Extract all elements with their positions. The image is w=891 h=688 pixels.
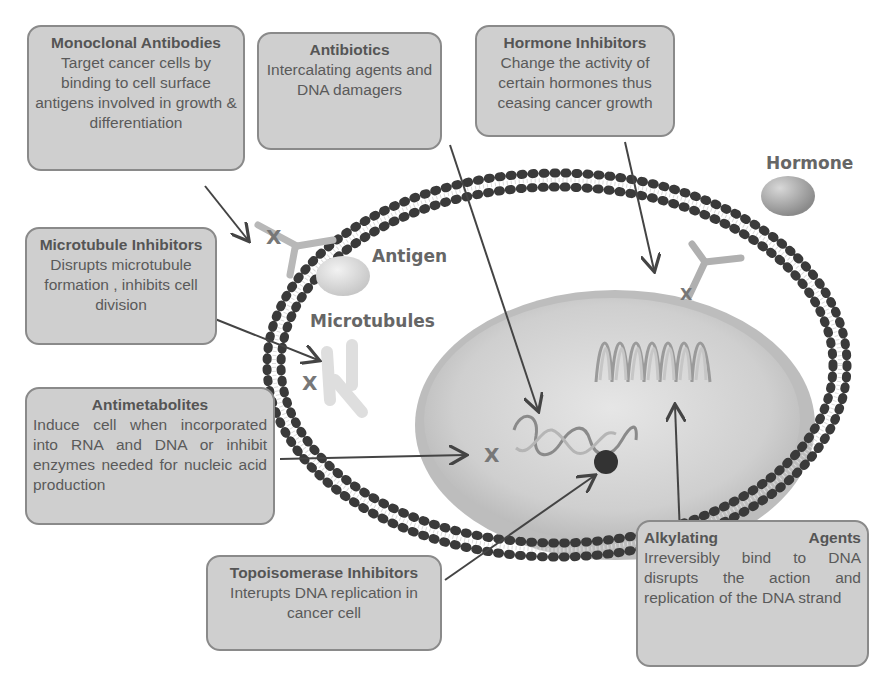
- arrow-microtubule: [210, 317, 318, 360]
- box-hormone-inhibitors: Hormone Inhibitors Change the activity o…: [475, 25, 675, 137]
- hormone-label: Hormone: [766, 153, 853, 173]
- x-mark-microtubule: X: [302, 371, 318, 395]
- x-mark-receptor: X: [680, 285, 693, 304]
- box-description: Irreversibly bind to DNA disrupts the ac…: [644, 548, 861, 608]
- microtubules-icon: [327, 345, 362, 412]
- box-description: Interupts DNA replication in cancer cell: [214, 583, 434, 623]
- box-title: Antibiotics: [265, 40, 434, 60]
- hormone-receptor-icon: [689, 244, 741, 296]
- arrow-hormone: [625, 142, 654, 270]
- antigen-label: Antigen: [372, 246, 447, 266]
- x-mark-antibody: X: [266, 225, 282, 249]
- box-alkylating-agents: Alkylating Agents Irreversibly bind to D…: [636, 520, 869, 667]
- box-topoisomerase-inhibitors: Topoisomerase Inhibitors Interupts DNA r…: [206, 555, 442, 651]
- box-title: Microtubule Inhibitors: [33, 235, 209, 255]
- box-description: Intercalating agents and DNA damagers: [265, 60, 434, 100]
- dna-damage-spot: [594, 450, 618, 474]
- box-description: Target cancer cells by binding to cell s…: [35, 53, 237, 133]
- box-title: Antimetabolites: [33, 395, 267, 415]
- box-monoclonal-antibodies: Monoclonal Antibodies Target cancer cell…: [27, 25, 245, 171]
- box-description: Disrupts microtubule formation , inhibit…: [33, 255, 209, 315]
- box-description: Change the activity of certain hormones …: [483, 53, 667, 113]
- box-title: Monoclonal Antibodies: [35, 33, 237, 53]
- hormone-shape: [761, 176, 815, 216]
- antigen-shape: [316, 256, 370, 296]
- box-title: Alkylating Agents: [644, 528, 861, 548]
- box-antibiotics: Antibiotics Intercalating agents and DNA…: [257, 32, 442, 150]
- box-microtubule-inhibitors: Microtubule Inhibitors Disrupts microtub…: [25, 227, 217, 345]
- box-description: Induce cell when incorporated into RNA a…: [33, 415, 267, 495]
- microtubules-label: Microtubules: [310, 311, 435, 331]
- box-title: Topoisomerase Inhibitors: [214, 563, 434, 583]
- cancer-drug-targets-diagram: X X X X Hormone Antigen Microtubules Mon…: [0, 0, 891, 688]
- box-title: Hormone Inhibitors: [483, 33, 667, 53]
- box-antimetabolites: Antimetabolites Induce cell when incorpo…: [25, 387, 275, 525]
- x-mark-dna: X: [484, 443, 500, 467]
